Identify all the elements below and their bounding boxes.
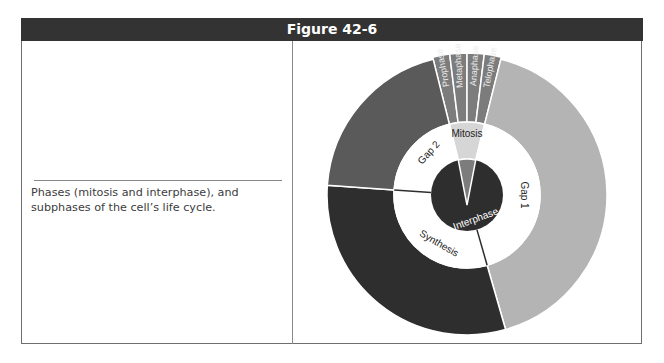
label-metaphase: Metaphase (452, 43, 465, 88)
label-gap1: Gap 1 (519, 181, 530, 209)
label-mitosis: Mitosis (451, 128, 482, 139)
cell-cycle-diagram: ProphaseMetaphaseAnaphaseTelophaseMitosi… (0, 0, 664, 363)
